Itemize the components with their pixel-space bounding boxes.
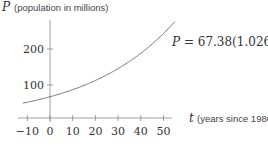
x-tick-label: 30 <box>111 125 125 138</box>
x-tick-label: 20 <box>88 125 102 138</box>
y-axis-var: P <box>1 0 11 14</box>
x-axis-label: (years since 1980) <box>197 113 268 124</box>
formula-annotation: P = 67.38(1.026)t <box>171 34 268 49</box>
x-tick-label: 0 <box>47 125 54 138</box>
y-axis-label: (population in millions) <box>14 2 109 13</box>
x-tick-label: 40 <box>134 125 148 138</box>
formula-rhs: = 67.38(1.026) <box>180 35 268 49</box>
y-tick-label: 100 <box>23 79 44 92</box>
x-ticks: −1001020304050 <box>16 115 171 138</box>
x-tick-label: −10 <box>16 125 39 138</box>
x-tick-label: 50 <box>157 125 171 138</box>
y-ticks: 100200 <box>23 43 53 92</box>
x-axis-var: t <box>189 111 194 125</box>
y-tick-label: 200 <box>23 43 44 56</box>
x-tick-label: 10 <box>66 125 80 138</box>
exponential-curve <box>23 21 175 103</box>
chart: −1001020304050 100200 P (population in m… <box>0 0 268 146</box>
